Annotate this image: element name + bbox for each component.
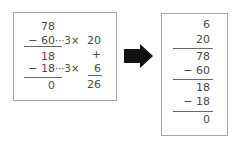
right-step2-subtract: − 18 bbox=[170, 96, 210, 107]
right-partial-quotient-2: 20 bbox=[185, 34, 210, 45]
right-partial-quotient-1: 6 bbox=[185, 19, 210, 30]
left-step1-note: ···3× bbox=[55, 35, 79, 46]
left-step1-quotient-part: 20 bbox=[82, 35, 101, 46]
left-remainder1: 18 bbox=[30, 51, 55, 62]
left-step2-quotient-part: 6 bbox=[82, 63, 101, 74]
left-panel-box bbox=[13, 12, 117, 101]
right-remainder-final: 0 bbox=[185, 114, 210, 125]
right-rule-2 bbox=[173, 79, 213, 80]
left-quotient-total: 26 bbox=[82, 79, 101, 90]
right-rule-3 bbox=[173, 111, 213, 112]
left-dividend: 78 bbox=[30, 21, 55, 32]
right-dividend: 78 bbox=[185, 51, 210, 62]
left-step2-note: ···3× bbox=[55, 63, 79, 74]
left-rule-1 bbox=[24, 46, 62, 47]
left-plus-sign: + bbox=[82, 49, 101, 60]
left-step1-subtract: − 60 bbox=[20, 35, 55, 46]
left-step2-subtract: − 18 bbox=[20, 63, 55, 74]
right-remainder1: 18 bbox=[185, 82, 210, 93]
right-step1-subtract: − 60 bbox=[170, 65, 210, 76]
right-rule-1 bbox=[173, 48, 213, 49]
left-rule-2 bbox=[24, 77, 62, 78]
left-quotient-rule bbox=[88, 75, 102, 76]
left-remainder-final: 0 bbox=[30, 80, 55, 91]
right-arrow-icon bbox=[124, 44, 154, 68]
